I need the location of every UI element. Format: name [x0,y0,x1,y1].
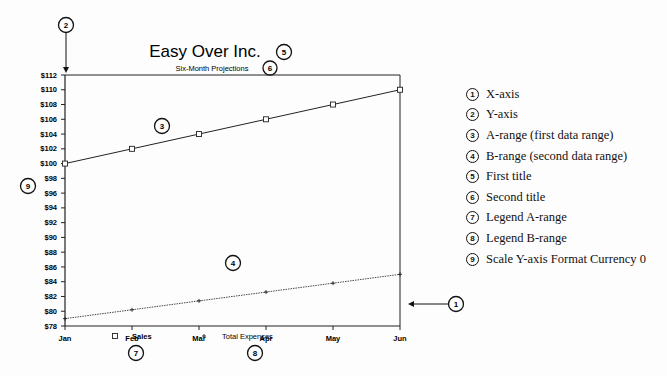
y-tick-label: $108 [40,100,57,109]
key-item: 6Second title [466,187,646,208]
key-label: B-range (second data range) [486,149,627,164]
square-marker-icon [331,102,336,107]
svg-text:2: 2 [64,21,69,30]
y-tick-label: $110 [41,85,57,94]
callout-number: 6 [466,191,479,204]
square-marker-icon [398,87,403,92]
y-axis-ticks: $78$80$82$84$86$88$90$92$94$96$98$100$10… [40,71,65,331]
plot-frame [65,75,400,326]
callout-number: 8 [466,232,479,245]
y-tick-label: $88 [44,248,57,257]
callout-1: 1 [408,297,464,312]
svg-text:4: 4 [231,259,236,268]
key-label: A-range (first data range) [486,128,613,143]
key-item: 9Scale Y-axis Format Currency 0 [466,249,646,270]
y-tick-label: $78 [44,322,57,331]
key-item: 7Legend A-range [466,208,646,229]
y-tick-label: $80 [44,307,57,316]
key-label: Second title [486,190,545,205]
callout-number: 4 [466,150,479,163]
chart-subtitle: Six-Month Projections [176,64,249,73]
chart-title: Easy Over Inc. [149,42,260,61]
svg-text:7: 7 [134,349,139,358]
callout-number: 7 [466,211,479,224]
square-marker-icon [63,161,68,166]
square-marker-icon [113,334,118,339]
callout-key: 1X-axis2Y-axis3A-range (first data range… [466,84,646,269]
callout-9: 9 [21,179,36,194]
legend-b-label: Total Expenses [222,332,273,341]
callout-number: 5 [466,170,479,183]
key-item: 2Y-axis [466,105,646,126]
y-tick-label: $84 [44,277,57,286]
callout-7: 7 [129,346,144,361]
legend-a-label: Sales [132,332,152,341]
key-label: Legend B-range [486,231,567,246]
callout-number: 9 [466,253,479,266]
svg-text:9: 9 [26,182,31,191]
key-item: 4B-range (second data range) [466,146,646,167]
x-tick-label: May [326,334,341,343]
callout-8: 8 [248,346,263,361]
y-tick-label: $90 [44,233,57,242]
callout-number: 3 [466,129,479,142]
callout-5: 5 [277,45,292,60]
key-label: Legend A-range [486,210,567,225]
series-total-expenses [63,272,402,320]
key-item: 3A-range (first data range) [466,125,646,146]
square-marker-icon [197,132,202,137]
y-tick-label: $98 [44,174,57,183]
svg-text:5: 5 [282,48,287,57]
x-tick-label: Jun [393,334,407,343]
svg-text:1: 1 [454,300,459,309]
callout-3: 3 [155,119,170,134]
y-tick-label: $106 [40,115,57,124]
callout-number: 2 [466,108,479,121]
y-tick-label: $104 [40,130,58,139]
key-item: 1X-axis [466,84,646,105]
svg-text:3: 3 [160,122,165,131]
callout-2: 2 [59,18,74,74]
key-label: X-axis [486,87,519,102]
key-label: Y-axis [486,107,518,122]
y-tick-label: $112 [41,71,57,80]
callout-6: 6 [263,61,277,75]
y-tick-label: $86 [44,263,57,272]
series-sales [63,87,403,166]
callout-number: 1 [466,88,479,101]
svg-text:6: 6 [268,64,273,73]
y-tick-label: $96 [44,189,57,198]
key-item: 5First title [466,166,646,187]
key-item: 8Legend B-range [466,228,646,249]
y-tick-label: $82 [44,292,57,301]
x-tick-label: Jan [59,334,72,343]
square-marker-icon [264,117,269,122]
key-label: Scale Y-axis Format Currency 0 [486,252,646,267]
svg-text:8: 8 [253,349,258,358]
y-tick-label: $100 [40,159,57,168]
key-label: First title [486,169,532,184]
y-tick-label: $102 [40,144,57,153]
y-tick-label: $92 [44,218,57,227]
y-tick-label: $94 [44,203,57,212]
callout-4: 4 [226,256,241,271]
square-marker-icon [130,146,135,151]
